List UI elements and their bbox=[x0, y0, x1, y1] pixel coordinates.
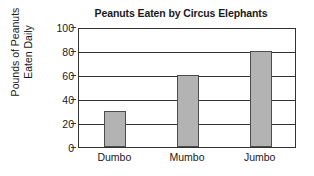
x-axis-tick-label: Dumbo bbox=[78, 151, 151, 163]
y-axis-tick-mark bbox=[71, 27, 76, 28]
bar-mumbo bbox=[177, 75, 199, 147]
y-axis-tick-mark bbox=[71, 147, 76, 148]
x-axis-tick-label: Mumbo bbox=[151, 151, 224, 163]
chart-title: Peanuts Eaten by Circus Elephants bbox=[56, 7, 306, 19]
plot-area bbox=[78, 28, 296, 148]
x-axis-tick-label: Jumbo bbox=[223, 151, 296, 163]
y-axis-tick-mark bbox=[71, 99, 76, 100]
bar-chart: Peanuts Eaten by Circus Elephants Pounds… bbox=[0, 0, 314, 176]
y-axis-tick-mark bbox=[71, 75, 76, 76]
y-axis-tick-mark bbox=[71, 123, 76, 124]
y-axis-tick-marks bbox=[0, 28, 78, 148]
x-axis-tick-labels: DumboMumboJumbo bbox=[78, 151, 296, 169]
y-axis-tick-mark bbox=[71, 51, 76, 52]
bar-jumbo bbox=[250, 51, 272, 147]
bar-dumbo bbox=[104, 111, 126, 147]
